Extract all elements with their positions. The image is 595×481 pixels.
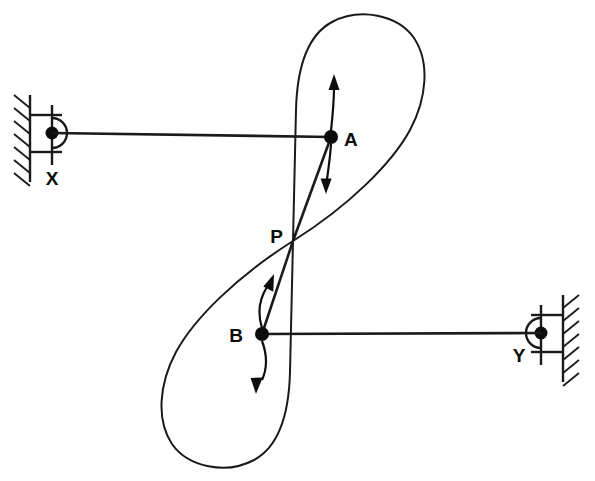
motion-arrow-A-upper-shaft xyxy=(331,88,334,131)
crossing-point-P: P xyxy=(270,226,283,247)
motion-arrow-A-upper-head xyxy=(329,74,340,90)
joint-dot-B xyxy=(255,327,269,341)
motion-arrow-B-lower-shaft xyxy=(262,341,266,380)
joint-dot-A xyxy=(324,130,338,144)
linkage-bars xyxy=(52,133,541,334)
diagram-canvas: X Y xyxy=(0,0,595,481)
ground-support-Y: Y xyxy=(513,295,579,386)
motion-arrow-A: A xyxy=(321,74,358,194)
label-X: X xyxy=(46,168,59,189)
mechanism-diagram: X Y xyxy=(0,0,595,481)
motion-arrow-A-lower-head xyxy=(321,179,332,195)
label-B: B xyxy=(229,325,243,346)
motion-arrow-B: B xyxy=(229,274,274,394)
hatch-lines-X xyxy=(14,95,30,186)
coupler-curve-upper-lobe xyxy=(293,14,425,241)
motion-arrow-B-lower-head xyxy=(251,377,263,394)
hatch-lines-Y xyxy=(563,295,579,386)
label-A: A xyxy=(344,129,358,150)
link-X-A xyxy=(52,133,331,137)
ground-support-X: X xyxy=(14,95,67,189)
link-B-Y xyxy=(262,333,541,334)
label-P: P xyxy=(270,226,283,247)
label-Y: Y xyxy=(513,345,526,366)
